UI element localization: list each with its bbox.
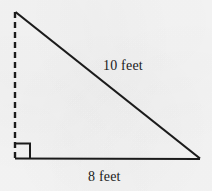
triangle-drawing	[0, 0, 212, 191]
right-triangle-figure: 10 feet 8 feet	[0, 0, 212, 191]
base-length-label: 8 feet	[88, 170, 121, 184]
base-leg	[15, 159, 200, 160]
hypotenuse-length-label: 10 feet	[103, 59, 143, 73]
right-angle-marker-icon	[15, 144, 30, 159]
hypotenuse-leg	[16, 12, 201, 159]
